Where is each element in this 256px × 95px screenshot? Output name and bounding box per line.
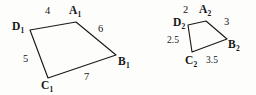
vertex-label-C1: C1 bbox=[41, 80, 53, 92]
edge-length-A2B2: 3 bbox=[224, 17, 229, 28]
vertex-label-D1: D1 bbox=[12, 21, 24, 33]
edge-length-A1B1: 6 bbox=[98, 24, 103, 35]
vertex-label-D2: D2 bbox=[173, 17, 185, 29]
edge-length-D1A1: 4 bbox=[45, 6, 50, 17]
quadrilateral-2 bbox=[188, 21, 227, 52]
vertex-label-B2: B2 bbox=[228, 39, 239, 51]
edge-length-D2C2: 2.5 bbox=[167, 36, 179, 46]
quadrilateral-2-outline bbox=[188, 21, 227, 52]
vertex-label-B1: B1 bbox=[118, 56, 129, 68]
figure-canvas bbox=[0, 0, 256, 95]
edge-length-D2A2: 2 bbox=[183, 5, 188, 16]
vertex-label-A1: A1 bbox=[69, 5, 81, 17]
edge-length-D1C1: 5 bbox=[23, 54, 28, 65]
vertex-label-C2: C2 bbox=[185, 55, 197, 67]
geometry-figure: D1 A1 B1 C1 4 6 5 7 D2 A2 B2 C2 2 3 2.5 … bbox=[0, 0, 256, 95]
edge-length-C1B1: 7 bbox=[84, 72, 89, 83]
edge-length-C2B2: 3.5 bbox=[206, 56, 218, 66]
vertex-label-A2: A2 bbox=[199, 4, 211, 16]
